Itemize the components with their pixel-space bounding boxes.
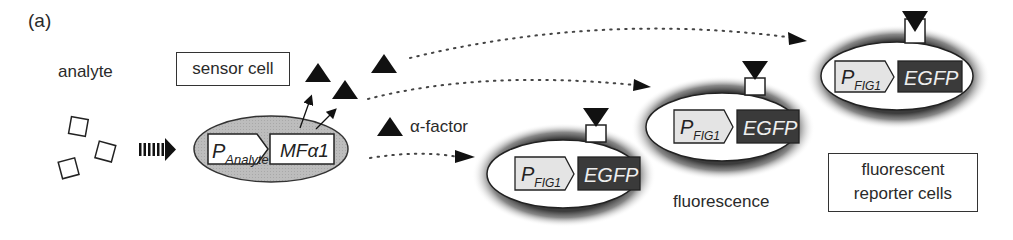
reporter-cell-3: PFIG1 EGFP bbox=[806, 11, 990, 129]
alpha-factor-triangle-icon bbox=[305, 63, 331, 82]
sensor-cell: PAnalyte MFα1 bbox=[194, 97, 348, 182]
receptor-icon bbox=[586, 125, 606, 142]
alpha-factor-triangle-icon bbox=[332, 80, 358, 99]
svg-text:EGFP: EGFP bbox=[743, 117, 798, 139]
input-arrow-icon bbox=[139, 138, 176, 161]
sensor-gene-label: MFα1 bbox=[280, 140, 329, 161]
analyte-square-icon bbox=[58, 158, 79, 179]
diagram-canvas: PAnalyte MFα1 PFIG1 EGFP bbox=[0, 0, 1013, 240]
svg-text:EGFP: EGFP bbox=[584, 164, 639, 186]
receptor-icon bbox=[745, 78, 765, 95]
reporter-cell-2: PFIG1 EGFP bbox=[631, 61, 815, 180]
svg-text:EGFP: EGFP bbox=[904, 67, 959, 89]
alpha-factor-legend-icon bbox=[377, 117, 403, 136]
receptor-bound-alpha-factor-icon bbox=[742, 61, 768, 80]
analyte-square-icon bbox=[95, 141, 116, 162]
analyte-square-icon bbox=[69, 117, 89, 137]
receptor-bound-alpha-factor-icon bbox=[583, 108, 609, 127]
analyte-molecules bbox=[58, 117, 116, 179]
alpha-factor-triangle-icon bbox=[371, 54, 397, 73]
reporter-cell-1: PFIG1 EGFP bbox=[472, 108, 656, 227]
